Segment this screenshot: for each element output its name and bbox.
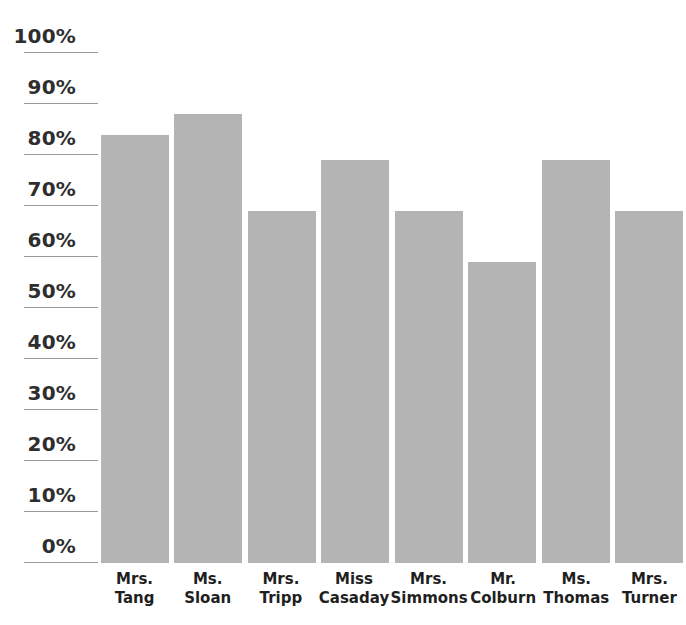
bar[interactable]: [615, 211, 683, 563]
y-axis-tick-label: 90%: [28, 75, 76, 99]
bar[interactable]: [174, 114, 242, 563]
gridline: [24, 307, 98, 308]
gridline: [24, 103, 98, 104]
gridline: [24, 256, 98, 257]
x-axis-label-line-1: Miss: [317, 570, 390, 589]
x-axis-tick-label: Ms.Thomas: [540, 566, 613, 608]
x-axis-label-line-1: Mrs.: [244, 570, 317, 589]
y-axis-tick-label: 60%: [28, 228, 76, 252]
gridline: [24, 460, 98, 461]
bar-slot: [172, 53, 246, 563]
bar-slot: [245, 53, 319, 563]
bar[interactable]: [468, 262, 536, 563]
y-axis-tick-label: 40%: [28, 330, 76, 354]
gridline: [24, 52, 98, 53]
bar[interactable]: [321, 160, 389, 563]
bar-slot: [98, 53, 172, 563]
plot-area: [98, 53, 686, 563]
x-axis-tick-label: MissCasaday: [317, 566, 390, 608]
bar-slot: [613, 53, 686, 563]
x-axis-tick-label: Mrs.Tang: [98, 566, 171, 608]
y-axis-tick-label: 50%: [28, 279, 76, 303]
bar[interactable]: [542, 160, 610, 563]
gridline: [24, 205, 98, 206]
x-axis-label-line-2: Tripp: [244, 589, 317, 608]
x-axis-label-line-2: Colburn: [467, 589, 540, 608]
x-axis-label-line-2: Casaday: [317, 589, 390, 608]
y-axis-tick-label: 20%: [28, 432, 76, 456]
bar-slot: [392, 53, 466, 563]
x-axis: Mrs.TangMs.SloanMrs.TrippMissCasadayMrs.…: [98, 566, 686, 625]
bar[interactable]: [101, 135, 169, 563]
bar-slot: [539, 53, 613, 563]
x-axis-label-line-2: Sloan: [171, 589, 244, 608]
x-axis-tick-label: Ms.Sloan: [171, 566, 244, 608]
gridline: [24, 409, 98, 410]
gridline: [24, 154, 98, 155]
x-axis-label-line-2: Thomas: [540, 589, 613, 608]
x-axis-label-line-1: Mrs.: [391, 570, 467, 589]
y-axis-tick-label: 10%: [28, 483, 76, 507]
bar[interactable]: [395, 211, 463, 563]
x-axis-tick-label: Mrs.Simmons: [391, 566, 467, 608]
bar-chart: 0%10%20%30%40%50%60%70%80%90%100% Mrs.Ta…: [0, 0, 686, 625]
x-axis-label-line-1: Mrs.: [613, 570, 686, 589]
gridline: [24, 511, 98, 512]
x-axis-tick-label: Mrs.Tripp: [244, 566, 317, 608]
y-axis-tick-label: 80%: [28, 126, 76, 150]
x-axis-label-line-1: Mrs.: [98, 570, 171, 589]
y-axis: 0%10%20%30%40%50%60%70%80%90%100%: [0, 0, 98, 625]
y-axis-tick-label: 0%: [42, 534, 76, 558]
bars-layer: [98, 53, 686, 563]
x-axis-label-line-2: Tang: [98, 589, 171, 608]
x-axis-label-line-2: Turner: [613, 589, 686, 608]
x-axis-label-line-1: Ms.: [171, 570, 244, 589]
y-axis-tick-label: 100%: [13, 24, 76, 48]
bar-slot: [319, 53, 393, 563]
bar[interactable]: [248, 211, 316, 563]
gridline: [24, 562, 98, 563]
bar-slot: [466, 53, 540, 563]
x-axis-tick-label: Mr.Colburn: [467, 566, 540, 608]
x-axis-label-line-2: Simmons: [391, 589, 467, 608]
y-axis-tick-label: 70%: [28, 177, 76, 201]
y-axis-tick-label: 30%: [28, 381, 76, 405]
x-axis-tick-label: Mrs.Turner: [613, 566, 686, 608]
gridline: [24, 358, 98, 359]
x-axis-label-line-1: Mr.: [467, 570, 540, 589]
x-axis-label-line-1: Ms.: [540, 570, 613, 589]
